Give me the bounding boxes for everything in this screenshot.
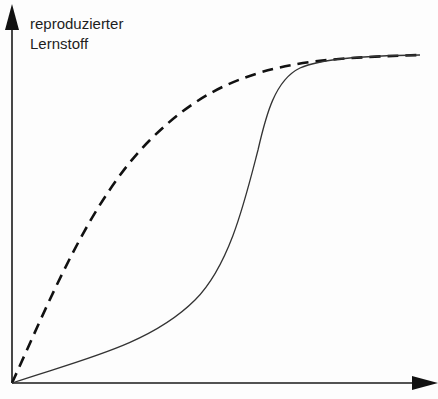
solid-curve	[12, 55, 420, 383]
x-axis-arrow-icon	[412, 376, 438, 390]
y-axis-label: reproduzierter Lernstoff	[30, 14, 123, 54]
y-axis-label-line1: reproduzierter	[30, 14, 123, 34]
y-axis-arrow-icon	[5, 4, 19, 30]
dashed-curve	[12, 55, 420, 383]
diagram-canvas: reproduzierter Lernstoff	[0, 0, 438, 399]
y-axis-label-line2: Lernstoff	[30, 34, 123, 54]
learning-curve-diagram	[0, 0, 438, 399]
